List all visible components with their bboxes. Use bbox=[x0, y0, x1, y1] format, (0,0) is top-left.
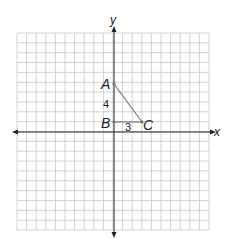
point-A-label: A bbox=[101, 77, 110, 91]
coordinate-plane bbox=[0, 0, 239, 249]
point-B-label: B bbox=[101, 116, 110, 130]
point-B bbox=[112, 120, 115, 123]
y-axis-label: y bbox=[110, 14, 116, 26]
x-axis-left-arrow-icon bbox=[12, 130, 18, 135]
x-axis-label: x bbox=[214, 126, 220, 138]
point-A bbox=[112, 82, 115, 85]
y-axis-bottom-arrow-icon bbox=[112, 232, 117, 238]
segment-AC bbox=[114, 84, 142, 122]
point-C-label: C bbox=[143, 118, 153, 132]
side-AB-length: 4 bbox=[103, 99, 109, 110]
side-BC-length: 3 bbox=[125, 122, 131, 133]
